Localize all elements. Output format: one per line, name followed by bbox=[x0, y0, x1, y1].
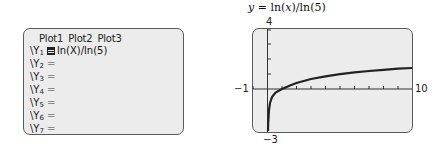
graph-plot bbox=[0, 0, 440, 147]
function-curve bbox=[268, 68, 412, 131]
y-ticks bbox=[268, 30, 272, 74]
axes bbox=[253, 29, 412, 132]
